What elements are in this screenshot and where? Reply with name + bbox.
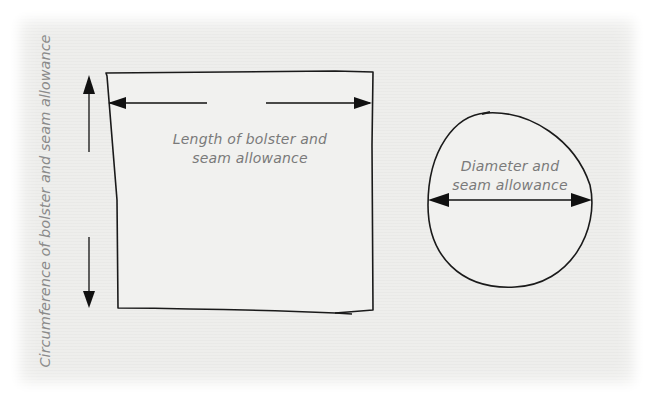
pattern-diagram [0, 0, 654, 403]
length-label: Length of bolster and seam allowance [150, 130, 350, 168]
diameter-label: Diameter and seam allowance [445, 157, 575, 195]
diameter-label-line2: seam allowance [445, 176, 575, 195]
rectangle-panel [106, 71, 373, 314]
circumference-label: Circumference of bolster and seam allowa… [37, 34, 53, 367]
circumference-arrow [83, 75, 95, 308]
length-label-line2: seam allowance [150, 149, 350, 168]
arrowhead-up-icon [83, 75, 95, 94]
arrowhead-down-icon [83, 291, 95, 308]
diameter-label-line1: Diameter and [445, 157, 575, 176]
length-label-line1: Length of bolster and [150, 130, 350, 149]
